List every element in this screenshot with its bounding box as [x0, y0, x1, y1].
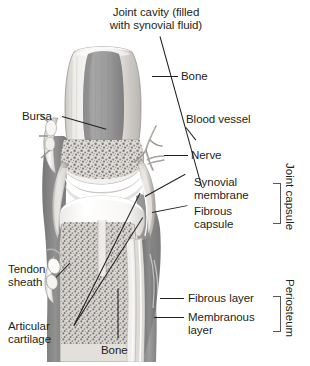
- label-nerve: Nerve: [191, 149, 221, 162]
- leader-membranous-layer: [154, 317, 184, 318]
- synovial-joint-illustration: [38, 44, 186, 362]
- leader-fibrous-layer: [160, 298, 184, 299]
- label-articular-cartilage: Articular cartilage: [8, 320, 51, 345]
- label-periosteum: Periosteum: [284, 279, 296, 337]
- label-bone-bottom: Bone: [101, 344, 128, 357]
- label-synovial-membrane: Synovial membrane: [194, 176, 249, 201]
- label-bone-top: Bone: [181, 70, 208, 83]
- periosteum-bracket: [273, 296, 281, 332]
- leader-bone-bottom: [118, 289, 119, 339]
- label-joint-cavity: Joint cavity (filled with synovial fluid…: [76, 6, 236, 31]
- leader-bone-top: [152, 76, 178, 77]
- label-blood-vessel: Blood vessel: [186, 113, 251, 126]
- joint-capsule-bracket: [273, 183, 281, 224]
- label-tendon-sheath: Tendon sheath: [8, 263, 45, 288]
- label-bursa: Bursa: [22, 110, 52, 123]
- label-membranous-layer: Membranous layer: [188, 311, 255, 336]
- label-joint-capsule: Joint capsule: [284, 163, 296, 230]
- figure-canvas: Joint cavity (filled with synovial fluid…: [0, 0, 310, 366]
- label-fibrous-layer: Fibrous layer: [188, 292, 254, 305]
- leader-nerve: [164, 155, 188, 156]
- label-fibrous-capsule: Fibrous capsule: [194, 205, 233, 230]
